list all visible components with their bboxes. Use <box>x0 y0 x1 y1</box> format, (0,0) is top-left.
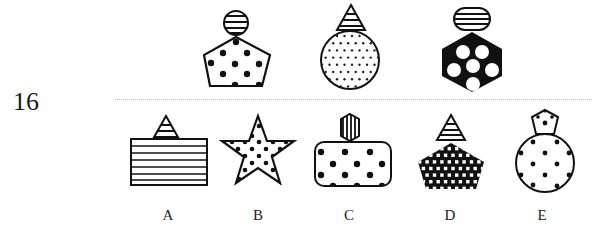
pattern-square <box>429 154 432 157</box>
pattern-square <box>485 187 488 190</box>
pattern-square <box>470 187 473 190</box>
pattern-square <box>477 160 480 163</box>
pattern-dot <box>340 42 342 44</box>
dotted-rounded-rectangle-body <box>315 142 391 189</box>
pattern-square <box>485 173 488 176</box>
pattern-square <box>462 147 465 150</box>
pattern-dot <box>351 49 353 51</box>
pattern-dot <box>343 64 345 66</box>
pattern-square <box>433 187 436 190</box>
pattern-dot <box>358 49 360 51</box>
pattern-dot <box>358 78 360 80</box>
pattern-square <box>440 160 443 163</box>
pattern-square <box>459 154 462 157</box>
pattern-square <box>455 147 458 150</box>
option-c-figure[interactable] <box>310 112 396 192</box>
pattern-dot <box>328 49 330 51</box>
pattern-square <box>437 167 440 170</box>
pattern-square <box>425 187 428 190</box>
pattern-dot <box>340 71 342 73</box>
small-dot-circle-body <box>321 31 380 89</box>
pattern-dot <box>343 78 345 80</box>
pattern-square <box>470 147 473 150</box>
striped-capsule-cap <box>450 8 494 30</box>
pattern-square <box>488 154 491 157</box>
pattern-square <box>418 173 421 176</box>
pattern-dot <box>362 71 364 73</box>
pattern-square <box>425 160 428 163</box>
pattern-square <box>462 173 465 176</box>
pattern-dot <box>358 64 360 66</box>
pattern-square <box>440 173 443 176</box>
pattern-dot <box>336 64 338 66</box>
pattern-dot <box>325 56 327 58</box>
pattern-square <box>451 180 454 183</box>
pattern-square <box>477 173 480 176</box>
pattern-dot <box>370 85 372 87</box>
option-b-figure[interactable] <box>218 112 302 192</box>
pattern-square <box>459 180 462 183</box>
striped-rectangle-body <box>131 139 207 185</box>
option-e-label[interactable]: E <box>532 207 552 224</box>
pattern-square <box>422 154 425 157</box>
pattern-dot <box>325 71 327 73</box>
pattern-square <box>477 147 480 150</box>
option-a-label[interactable]: A <box>158 207 178 224</box>
pattern-dot <box>332 85 334 87</box>
pattern-dot <box>370 42 372 44</box>
pattern-square <box>470 160 473 163</box>
striped-triangle-cap <box>145 116 185 139</box>
pattern-dot <box>328 64 330 66</box>
pattern-square <box>481 154 484 157</box>
pattern-square <box>440 187 443 190</box>
pattern-square <box>455 173 458 176</box>
pattern-dot <box>347 71 349 73</box>
pattern-dot <box>362 56 364 58</box>
pattern-dot <box>358 35 360 37</box>
pattern-dot <box>325 85 327 87</box>
pattern-dot <box>336 78 338 80</box>
pattern-square <box>488 180 491 183</box>
pattern-dot <box>351 78 353 80</box>
option-e-figure[interactable] <box>505 106 585 194</box>
pattern-square <box>440 147 443 150</box>
pattern-dot <box>343 35 345 37</box>
pattern-square <box>429 180 432 183</box>
pattern-dot <box>366 64 368 66</box>
pattern-square <box>466 180 469 183</box>
option-a-figure[interactable] <box>125 112 215 188</box>
vertical-striped-hexagon-cap <box>341 112 359 144</box>
pattern-square <box>429 167 432 170</box>
pattern-square <box>448 147 451 150</box>
pattern-dot <box>328 35 330 37</box>
pattern-square <box>418 160 421 163</box>
pattern-square <box>448 160 451 163</box>
dotted-circle-body <box>516 134 574 192</box>
pattern-dot <box>355 56 357 58</box>
option-b-label[interactable]: B <box>248 207 268 224</box>
pattern-square <box>433 160 436 163</box>
pattern-square <box>462 160 465 163</box>
pattern-dot <box>373 64 375 66</box>
option-c-label[interactable]: C <box>339 207 359 224</box>
pattern-dot <box>355 85 357 87</box>
option-d-figure[interactable] <box>410 112 496 192</box>
pattern-square <box>437 180 440 183</box>
option-d-label[interactable]: D <box>440 207 460 224</box>
pattern-square <box>474 154 477 157</box>
pattern-square <box>451 154 454 157</box>
pattern-dot <box>373 49 375 51</box>
pattern-square <box>433 147 436 150</box>
pattern-square <box>466 154 469 157</box>
pattern-dot <box>373 35 375 37</box>
pattern-dot <box>355 71 357 73</box>
dotted-star-body <box>222 116 294 183</box>
pattern-dot <box>370 71 372 73</box>
pattern-dot <box>332 56 334 58</box>
question-number: 16 <box>13 87 39 117</box>
pattern-dot <box>366 49 368 51</box>
pattern-dot <box>362 42 364 44</box>
pattern-dot <box>351 35 353 37</box>
pattern-square <box>425 147 428 150</box>
pattern-square <box>451 167 454 170</box>
